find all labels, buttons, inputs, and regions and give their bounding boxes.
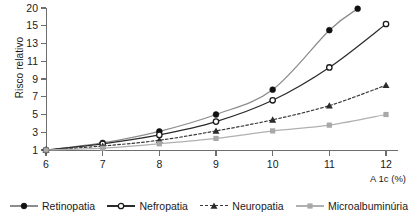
x-tick-label: 6: [33, 158, 59, 170]
x-tick-label: 9: [203, 158, 229, 170]
chart-page: Risco relativo 1357911131520 6789101112 …: [0, 0, 416, 220]
data-point-marker: [100, 146, 105, 151]
data-point-marker: [119, 203, 124, 208]
legend-marker: [10, 201, 38, 211]
x-tick: [329, 151, 330, 156]
data-point-marker: [355, 6, 361, 12]
y-tick-label: 20: [14, 3, 38, 13]
data-point-marker: [270, 98, 275, 103]
series-1: [43, 6, 360, 153]
data-point-marker: [270, 87, 276, 93]
data-point-marker: [326, 27, 332, 33]
x-tick: [159, 151, 160, 156]
legend-label: Retinopatia: [42, 200, 95, 212]
legend-key-filled-triangle-icon: [200, 201, 228, 211]
data-point-marker: [21, 203, 27, 209]
x-tick: [102, 151, 103, 156]
legend-key-filled-circle-icon: [10, 201, 38, 211]
x-axis-title: A 1c (%): [370, 173, 406, 184]
x-tick-label: 7: [90, 158, 116, 170]
legend-marker: [296, 201, 324, 211]
legend-marker: [200, 201, 228, 211]
data-point-marker: [270, 128, 275, 133]
legend-label: Neuropatia: [232, 200, 283, 212]
x-tick-label: 10: [260, 158, 286, 170]
y-tick-label: 15: [14, 20, 38, 30]
y-tick-label: 9: [14, 74, 38, 84]
legend-label: Nefropatia: [139, 200, 187, 212]
data-point-marker: [383, 82, 390, 88]
data-point-marker: [307, 203, 312, 208]
y-tick-label: 7: [14, 91, 38, 101]
x-tick: [215, 151, 216, 156]
legend-item-4[interactable]: Microalbuminúria: [296, 200, 408, 212]
data-point-marker: [327, 65, 332, 70]
data-point-marker: [383, 112, 388, 117]
data-point-marker: [213, 119, 218, 124]
legend-item-1[interactable]: Retinopatia: [10, 200, 95, 212]
data-point-marker: [211, 203, 218, 209]
legend-item-2[interactable]: Nefropatia: [107, 200, 187, 212]
y-tick-label: 3: [14, 127, 38, 137]
legend-item-3[interactable]: Neuropatia: [200, 200, 283, 212]
data-point-marker: [383, 21, 388, 26]
chart-svg: [46, 8, 386, 150]
y-tick-label: 5: [14, 109, 38, 119]
y-tick-label: 11: [14, 56, 38, 66]
x-tick-label: 12: [373, 158, 399, 170]
y-tick-label: 13: [14, 38, 38, 48]
data-point-marker: [213, 112, 219, 118]
x-tick: [272, 151, 273, 156]
x-tick-label: 11: [316, 158, 342, 170]
legend-key-filled-square-icon: [296, 201, 324, 211]
chart-legend: RetinopatiaNefropatiaNeuropatiaMicroalbu…: [0, 196, 416, 216]
legend-label: Microalbuminúria: [328, 200, 408, 212]
x-tick: [385, 151, 386, 156]
plot-area: [46, 8, 386, 150]
x-tick-label: 8: [146, 158, 172, 170]
y-tick-label: 1: [14, 145, 38, 155]
data-point-marker: [157, 141, 162, 146]
data-point-marker: [327, 123, 332, 128]
legend-key-open-circle-icon: [107, 201, 135, 211]
data-point-marker: [213, 136, 218, 141]
legend-marker: [107, 201, 135, 211]
x-axis-line: [46, 150, 398, 151]
data-point-marker: [43, 147, 48, 152]
